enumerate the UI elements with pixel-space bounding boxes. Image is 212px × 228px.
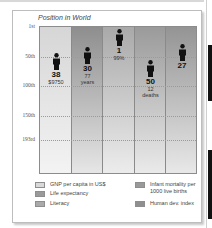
legend-label: Infant mortality per — [150, 181, 196, 188]
marker-infant-mortality: 50 12 deaths — [135, 60, 166, 98]
y-tick-label: 150th — [11, 112, 35, 118]
legend-swatch — [35, 201, 45, 207]
y-tick-label: 100th — [11, 82, 35, 88]
marker-hdi: 27 — [166, 44, 197, 70]
legend: GNP per capita in US$ Life expectancy Li… — [27, 179, 197, 219]
rank-value: 38 — [40, 71, 72, 79]
rank-value: 27 — [166, 62, 197, 70]
person-icon — [115, 29, 124, 46]
legend-item-hdi: Human dev. index — [135, 200, 194, 207]
gridline-100 — [39, 86, 197, 87]
legend-item-literacy: Literacy — [35, 200, 69, 207]
chart-title: Position in World — [38, 14, 91, 21]
legend-swatch — [135, 201, 145, 207]
legend-item-life-expectancy: Life expectancy — [35, 190, 88, 197]
legend-label: GNP per capita in US$ — [50, 181, 106, 188]
legend-swatch — [35, 191, 45, 197]
person-icon — [83, 47, 92, 64]
y-tick-label: 1st — [11, 23, 35, 29]
gridline-193 — [39, 140, 197, 141]
top-rule — [0, 0, 204, 2]
page-edge-bar — [208, 45, 212, 101]
stat-value: $9750 — [40, 79, 72, 85]
column-infant-mortality — [135, 27, 166, 173]
marker-literacy: 1 99% — [103, 29, 135, 61]
legend-label: Human dev. index — [150, 200, 194, 207]
page-edge-bar — [208, 150, 212, 219]
rank-value: 50 — [135, 78, 166, 86]
person-icon — [178, 44, 187, 61]
stat-unit: deaths — [135, 92, 166, 98]
column-gnp — [40, 27, 72, 173]
rank-value: 30 — [72, 65, 103, 73]
marker-life-expectancy: 30 77 years — [72, 47, 103, 85]
stat-value: 99% — [103, 55, 135, 61]
y-tick-label: 50th — [11, 53, 35, 59]
stat-unit: years — [72, 79, 103, 85]
marker-gnp: 38 $9750 — [40, 53, 72, 85]
gridline-150 — [39, 116, 197, 117]
legend-swatch — [135, 182, 145, 188]
person-icon — [146, 60, 155, 77]
rank-value: 1 — [103, 47, 135, 55]
person-icon — [52, 53, 61, 70]
legend-item-infant-mortality: Infant mortality per 1000 live births — [135, 181, 196, 195]
chart-panel: Position in World 1st 50th 100th 150th 1… — [12, 10, 202, 223]
right-rule — [206, 0, 207, 228]
legend-label: 1000 live births — [150, 188, 196, 195]
y-tick-label: 193rd — [11, 136, 35, 142]
legend-label: Life expectancy — [50, 190, 88, 197]
legend-item-gnp: GNP per capita in US$ — [35, 181, 106, 188]
plot-area: 38 $9750 30 77 years 1 99% 50 12 deaths … — [39, 26, 197, 174]
legend-swatch — [35, 182, 45, 188]
legend-label: Literacy — [50, 200, 69, 207]
